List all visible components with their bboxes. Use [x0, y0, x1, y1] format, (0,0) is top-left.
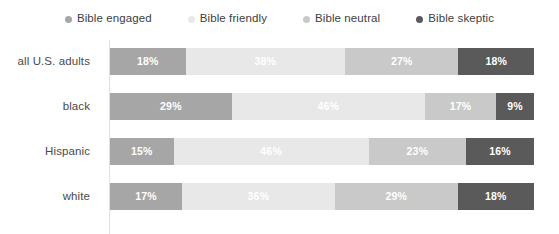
bar-segment-bible-engaged[interactable]: 17%	[110, 183, 182, 210]
segment-value-label: 17%	[450, 101, 472, 112]
dot-icon	[303, 16, 310, 23]
legend-item-bible-engaged[interactable]: Bible engaged	[65, 13, 152, 25]
segment-value-label: 29%	[385, 191, 407, 202]
bar-segment-bible-friendly[interactable]: 46%	[174, 138, 369, 165]
bar-segment-bible-friendly[interactable]: 36%	[182, 183, 335, 210]
legend-item-bible-skeptic[interactable]: Bible skeptic	[416, 13, 494, 25]
bar-segment-bible-engaged[interactable]: 15%	[110, 138, 174, 165]
bar-segment-bible-neutral[interactable]: 23%	[369, 138, 467, 165]
segment-value-label: 36%	[248, 191, 270, 202]
legend-item-label: Bible engaged	[77, 13, 152, 25]
stacked-bar: 17% 36% 29% 18%	[110, 183, 534, 210]
bar-segment-bible-neutral[interactable]: 17%	[425, 93, 496, 120]
segment-value-label: 23%	[407, 146, 429, 157]
row-label-white: white	[0, 191, 100, 203]
plot-area: all U.S. adults 18% 38% 27% 18% black	[0, 40, 559, 234]
segment-value-label: 38%	[255, 56, 277, 67]
bar-segment-bible-engaged[interactable]: 18%	[110, 48, 186, 75]
chart-legend: Bible engaged Bible friendly Bible neutr…	[0, 9, 559, 29]
segment-value-label: 17%	[135, 191, 157, 202]
bar-segment-bible-skeptic[interactable]: 18%	[458, 183, 534, 210]
legend-item-label: Bible friendly	[200, 13, 267, 25]
bar-segment-bible-skeptic[interactable]: 16%	[466, 138, 534, 165]
segment-value-label: 29%	[160, 101, 182, 112]
segment-value-label: 9%	[507, 101, 523, 112]
dot-icon	[188, 16, 195, 23]
bar-segment-bible-neutral[interactable]: 29%	[335, 183, 458, 210]
row-label-all-us-adults: all U.S. adults	[0, 56, 100, 68]
legend-item-bible-neutral[interactable]: Bible neutral	[303, 13, 380, 25]
segment-value-label: 18%	[137, 56, 159, 67]
legend-item-label: Bible neutral	[315, 13, 380, 25]
segment-value-label: 46%	[260, 146, 282, 157]
table-row: all U.S. adults 18% 38% 27% 18%	[0, 48, 559, 75]
legend-item-label: Bible skeptic	[428, 13, 494, 25]
table-row: white 17% 36% 29% 18%	[0, 183, 559, 210]
bar-segment-bible-skeptic[interactable]: 18%	[458, 48, 534, 75]
segment-value-label: 18%	[485, 56, 507, 67]
bar-segment-bible-friendly[interactable]: 46%	[232, 93, 425, 120]
row-label-black: black	[0, 101, 100, 113]
segment-value-label: 15%	[131, 146, 153, 157]
bar-segment-bible-neutral[interactable]: 27%	[345, 48, 458, 75]
bar-segment-bible-friendly[interactable]: 38%	[186, 48, 346, 75]
segment-value-label: 46%	[317, 101, 339, 112]
dot-icon	[416, 16, 423, 23]
stacked-bar: 29% 46% 17% 9%	[110, 93, 534, 120]
legend-item-bible-friendly[interactable]: Bible friendly	[188, 13, 267, 25]
stacked-bar-chart: Bible engaged Bible friendly Bible neutr…	[0, 0, 559, 234]
bar-segment-bible-skeptic[interactable]: 9%	[496, 93, 534, 120]
row-label-hispanic: Hispanic	[0, 146, 100, 158]
segment-value-label: 18%	[485, 191, 507, 202]
table-row: Hispanic 15% 46% 23% 16%	[0, 138, 559, 165]
stacked-bar: 18% 38% 27% 18%	[110, 48, 534, 75]
segment-value-label: 16%	[489, 146, 511, 157]
bar-segment-bible-engaged[interactable]: 29%	[110, 93, 232, 120]
segment-value-label: 27%	[391, 56, 413, 67]
table-row: black 29% 46% 17% 9%	[0, 93, 559, 120]
stacked-bar: 15% 46% 23% 16%	[110, 138, 534, 165]
dot-icon	[65, 16, 72, 23]
